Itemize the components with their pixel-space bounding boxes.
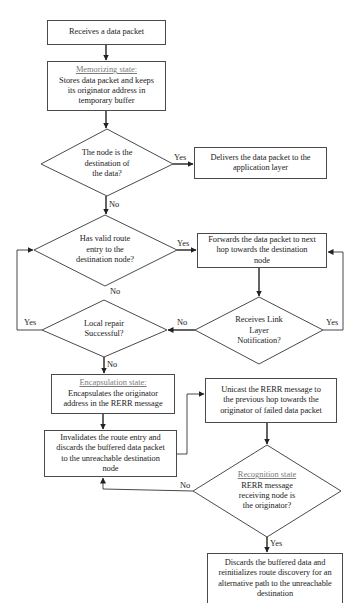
encapsulation-state-text: Encapsulates the originator address in t… bbox=[63, 389, 162, 410]
box-memorizing-state: Memorizing state: Stores data packet and… bbox=[47, 61, 166, 111]
box-receive-packet-text: Receives a data packet bbox=[69, 27, 144, 37]
box-forward-packet-text: Forwards the data packet to next hop tow… bbox=[208, 235, 315, 266]
edge-label-destination-no: No bbox=[109, 200, 119, 210]
box-deliver-packet: Delivers the data packet to the applicat… bbox=[194, 147, 327, 179]
memorizing-state-heading: Memorizing state: bbox=[76, 65, 137, 75]
edge-label-link-yes: Yes bbox=[326, 318, 338, 328]
diamond-valid-route-text: Has valid route entry to the destination… bbox=[76, 234, 134, 265]
edge-label-recognition-yes: Yes bbox=[270, 539, 282, 549]
diamond-link-notification-text: Receives Link Layer Notification? bbox=[235, 315, 283, 346]
box-invalidate-route-text: Invalidates the route entry and discards… bbox=[56, 433, 164, 475]
edge-label-repair-no: No bbox=[107, 360, 117, 370]
box-discard-and-rediscover: Discards the buffered data and reinitial… bbox=[207, 553, 343, 603]
box-forward-packet: Forwards the data packet to next hop tow… bbox=[197, 233, 327, 268]
diamond-recognition-text: RERR message receiving node is the origi… bbox=[239, 481, 295, 512]
edge-label-repair-yes: Yes bbox=[24, 318, 36, 328]
diamond-is-destination-text: The node is the destination of the data? bbox=[82, 148, 133, 179]
encapsulation-state-heading: Encapsulation state: bbox=[79, 378, 146, 388]
edge-label-recognition-no: No bbox=[180, 481, 190, 491]
flowchart-canvas: Receives a data packet Memorizing state:… bbox=[0, 0, 364, 616]
box-deliver-packet-text: Delivers the data packet to the applicat… bbox=[210, 153, 310, 174]
diamond-local-repair-label: Local repair Successful? bbox=[69, 317, 139, 341]
box-unicast-rerr: Unicast the RERR message to the previous… bbox=[205, 378, 337, 423]
edge-label-route-yes: Yes bbox=[177, 239, 189, 249]
diamond-is-destination-label: The node is the destination of the data? bbox=[67, 146, 147, 182]
diamond-link-notification-label: Receives Link Layer Notification? bbox=[219, 313, 299, 349]
arrow-invalidate-to-unicast bbox=[177, 394, 204, 454]
box-unicast-rerr-text: Unicast the RERR message to the previous… bbox=[220, 385, 322, 416]
diamond-valid-route-label: Has valid route entry to the destination… bbox=[60, 232, 150, 268]
box-invalidate-route: Invalidates the route entry and discards… bbox=[44, 430, 177, 477]
memorizing-state-text: Stores data packet and keeps its origina… bbox=[59, 76, 154, 107]
edge-label-destination-yes: Yes bbox=[174, 153, 186, 163]
box-encapsulation-state: Encapsulation state: Encapsulates the or… bbox=[51, 374, 175, 414]
diamond-recognition-label: Recognition state RERR message receiving… bbox=[222, 468, 312, 514]
box-discard-and-rediscover-text: Discards the buffered data and reinitial… bbox=[218, 558, 332, 600]
edge-label-route-no: No bbox=[110, 287, 120, 297]
diamond-local-repair-text: Local repair Successful? bbox=[84, 319, 124, 340]
box-receive-packet: Receives a data packet bbox=[47, 20, 166, 45]
recognition-state-heading: Recognition state bbox=[238, 470, 296, 480]
edge-label-link-no: No bbox=[177, 318, 187, 328]
